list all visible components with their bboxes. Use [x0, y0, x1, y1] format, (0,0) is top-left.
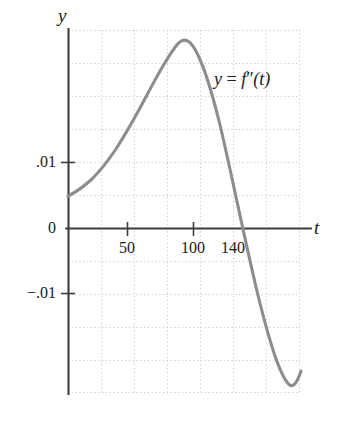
ytick-label-0: 0	[14, 220, 56, 236]
xtick-label-100: 100	[172, 240, 214, 256]
annotation-equals: =	[227, 69, 237, 89]
annotation-y: y	[214, 69, 222, 89]
xtick-label-50: 50	[110, 240, 144, 256]
y-axis-label: y	[58, 6, 66, 25]
xtick-label-140: 140	[212, 240, 254, 256]
figure-graph-of-second-derivative: y t .01 0 −.01 50 100 140 y = f″(t)	[0, 0, 340, 446]
ytick-label-0.01: .01	[14, 154, 56, 170]
axes	[66, 29, 311, 394]
annotation-argument: (t)	[253, 69, 270, 89]
t-axis-label: t	[314, 218, 319, 237]
curve-equation-annotation: y = f″(t)	[214, 70, 270, 88]
ytick-label-neg-0.01: −.01	[6, 285, 56, 301]
